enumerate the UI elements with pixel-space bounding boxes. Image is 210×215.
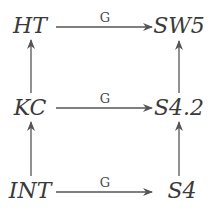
node-s4-2: S4.2 — [154, 97, 204, 119]
arrow-label-top: G — [100, 11, 110, 24]
commutative-diagram: HT SW5 KC S4.2 INT S4 G G G — [0, 0, 210, 215]
node-s4: S4 — [167, 180, 196, 202]
node-int: INT — [9, 180, 52, 202]
arrow-label-mid: G — [100, 92, 110, 105]
node-sw5: SW5 — [153, 15, 205, 37]
node-kc: KC — [14, 97, 47, 119]
arrow-label-bottom: G — [100, 176, 110, 189]
node-ht: HT — [13, 15, 47, 37]
